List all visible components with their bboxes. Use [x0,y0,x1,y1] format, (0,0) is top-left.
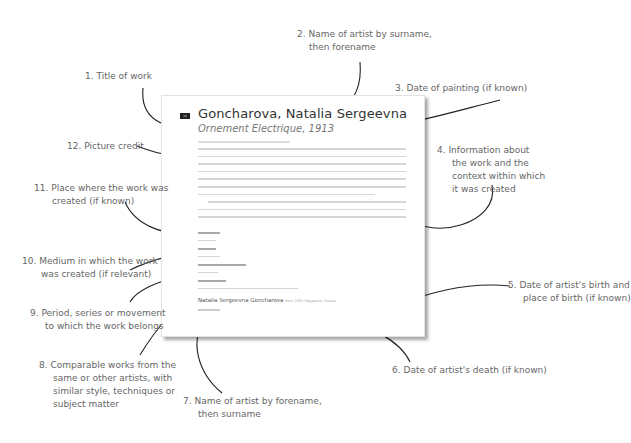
section-similar-works [198,280,398,289]
page-card: 30 Goncharova, Natalia Sergeevna Ornemen… [161,95,425,337]
callout-1: 1. Title of work [85,70,152,83]
callout-11: 11. Place where the work wascreated (if … [34,182,168,208]
artist-name: Natalia Sergeevna Goncharova Born 1881 N… [198,297,336,303]
callout-2: 2. Name of artist by surname,then forena… [297,28,432,54]
section-created [198,232,398,241]
info-text [198,148,406,224]
section-medium [198,248,398,257]
callout-10: 10. Medium in which the workwas created … [22,255,158,281]
page-number-badge: 30 [180,113,190,119]
callout-7: 7. Name of artist by forename,then surna… [183,395,322,421]
callout-12: 12. Picture credit [67,140,144,153]
callout-6: 6. Date of artist's death (if known) [392,364,547,377]
artist-death [198,309,220,311]
callout-3: 3. Date of painting (if known) [395,82,527,95]
page-title: Goncharova, Natalia Sergeevna [198,106,407,121]
section-period [198,264,398,273]
callout-9: 9. Period, series or movementto which th… [30,307,166,333]
callout-8: 8. Comparable works from thesame or othe… [39,359,176,411]
picture-credit [198,141,290,143]
callout-4: 4. Information aboutthe work and thecont… [437,144,545,196]
callout-5: 5. Date of artist's birth andplace of bi… [508,279,631,305]
work-title-date: Ornement Electrique, 1913 [198,123,334,134]
